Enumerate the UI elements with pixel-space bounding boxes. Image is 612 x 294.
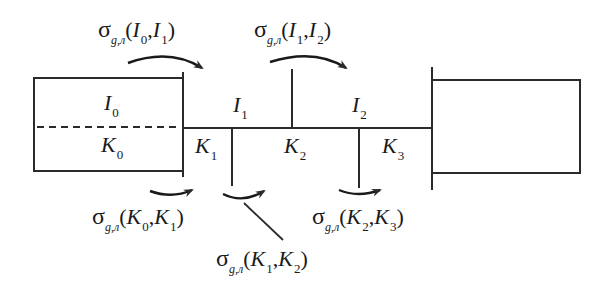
label-K0: K0 xyxy=(101,132,123,158)
formula-I1-I2: σg,л(I1,I2) xyxy=(254,16,331,43)
arrow-K2-K3 xyxy=(339,190,380,194)
arrow-K0-K1 xyxy=(150,190,192,195)
formula-I0-I1: σg,л(I0,I1) xyxy=(98,16,175,43)
label-K1: K1 xyxy=(195,133,217,159)
label-I0: I0 xyxy=(104,90,119,116)
label-I2: I2 xyxy=(352,92,367,118)
label-I1: I1 xyxy=(233,92,248,118)
arrow-I0-I1 xyxy=(128,57,202,68)
formula-K0-K1: σg,л(K0,K1) xyxy=(92,203,184,230)
leader-K1-K2 xyxy=(244,203,283,240)
formula-K1-K2: σg,л(K1,K2) xyxy=(216,245,308,272)
formula-K2-K3: σg,л(K2,K3) xyxy=(312,203,404,230)
label-K3: K3 xyxy=(382,133,404,159)
arrow-I1-I2 xyxy=(270,56,346,68)
label-K2: K2 xyxy=(284,133,306,159)
right-box xyxy=(432,80,580,173)
arrow-K1-K2 xyxy=(223,191,264,198)
